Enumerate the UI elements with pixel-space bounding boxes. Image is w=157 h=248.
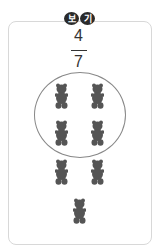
gummy-bear-icon bbox=[91, 120, 104, 146]
fraction-denominator: 7 bbox=[0, 53, 157, 71]
example-badge: 보 기 bbox=[64, 12, 96, 26]
gummy-bear-icon bbox=[55, 83, 68, 109]
gummy-bear-icon bbox=[91, 159, 104, 185]
gummy-bear-icon bbox=[73, 198, 86, 224]
fraction-bar bbox=[71, 50, 87, 51]
fraction-numerator: 4 bbox=[0, 27, 157, 45]
badge-char-1: 보 bbox=[64, 12, 79, 25]
grouping-circle bbox=[34, 72, 126, 158]
gummy-bear-icon bbox=[55, 159, 68, 185]
badge-char-2: 기 bbox=[80, 12, 95, 25]
gummy-bear-icon bbox=[91, 83, 104, 109]
gummy-bear-icon bbox=[55, 120, 68, 146]
